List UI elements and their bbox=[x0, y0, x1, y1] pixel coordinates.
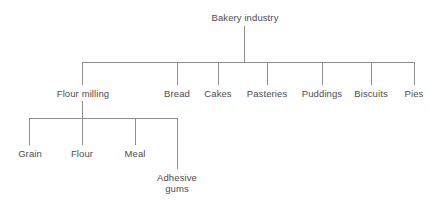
connector-drop-bread bbox=[177, 62, 178, 85]
connector-drop-flour-milling bbox=[82, 62, 83, 85]
connector-drop-flour bbox=[82, 118, 83, 145]
node-cakes: Cakes bbox=[204, 88, 231, 99]
node-flour-milling: Flour milling bbox=[57, 88, 110, 99]
node-puddings: Puddings bbox=[302, 88, 342, 99]
node-meal: Meal bbox=[125, 148, 146, 159]
node-grain: Grain bbox=[18, 148, 42, 159]
connector-drop-adhesive-gums bbox=[177, 118, 178, 169]
connector-level2-bus bbox=[82, 62, 415, 63]
tree-diagram: Bakery industry Flour milling Bread Cake… bbox=[0, 0, 434, 211]
node-adhesive-gums: Adhesive gums bbox=[142, 172, 212, 194]
connector-drop-puddings bbox=[322, 62, 323, 85]
connector-flour-milling-stem bbox=[82, 101, 83, 119]
connector-drop-pies bbox=[414, 62, 415, 85]
node-bakery-industry: Bakery industry bbox=[212, 12, 279, 23]
node-biscuits: Biscuits bbox=[354, 88, 388, 99]
node-pasteries: Pasteries bbox=[247, 88, 288, 99]
connector-root-stem bbox=[244, 26, 245, 62]
connector-drop-pasteries bbox=[267, 62, 268, 85]
connector-level3-bus bbox=[29, 118, 178, 119]
connector-drop-meal bbox=[135, 118, 136, 145]
node-pies: Pies bbox=[405, 88, 424, 99]
connector-drop-cakes bbox=[218, 62, 219, 85]
node-bread: Bread bbox=[164, 88, 190, 99]
node-flour: Flour bbox=[71, 148, 93, 159]
node-adhesive-gums-line1: Adhesive bbox=[157, 172, 197, 183]
connector-drop-biscuits bbox=[371, 62, 372, 85]
node-adhesive-gums-line2: gums bbox=[142, 183, 212, 194]
connector-drop-grain bbox=[29, 118, 30, 145]
